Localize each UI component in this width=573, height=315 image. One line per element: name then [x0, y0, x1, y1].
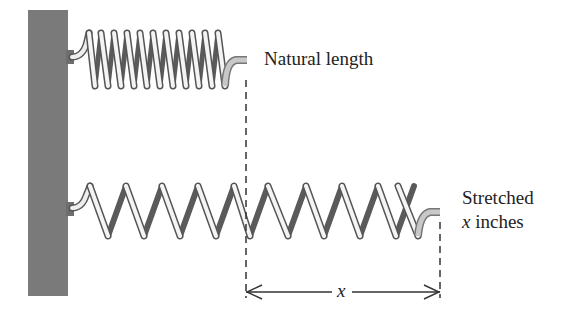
wall — [28, 10, 68, 296]
stretched-label: Stretched — [462, 187, 534, 209]
natural-length-label: Natural length — [264, 48, 373, 70]
dimension-label-x: x — [337, 280, 345, 302]
stretched-amount-label: x inches — [462, 211, 524, 233]
inches-text: inches — [470, 211, 523, 232]
stretched-label-line1: Stretched — [462, 187, 534, 208]
spring-stretched — [72, 186, 440, 236]
spring-natural — [72, 33, 247, 86]
spring-diagram: Natural length Stretched x inches x — [0, 0, 573, 315]
